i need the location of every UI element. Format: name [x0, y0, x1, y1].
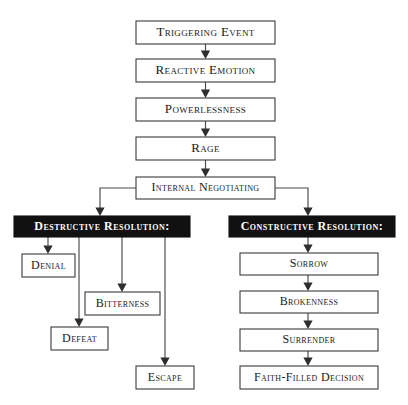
node-constructive_resolution[interactable]: Constructive Resolution:: [229, 216, 395, 237]
arrow-head-icon: [74, 319, 83, 328]
node-reactive_emotion[interactable]: Reactive Emotion: [136, 59, 275, 82]
arrow-head-icon: [201, 51, 210, 60]
node-label: Brokenness: [280, 294, 339, 308]
node-label: Powerlessness: [165, 101, 246, 116]
node-label: Faith-Filled Decision: [254, 370, 364, 384]
node-destructive_resolution[interactable]: Destructive Resolution:: [14, 216, 190, 237]
edge-rage-to-internal_negotiating: [201, 160, 210, 177]
arrow-head-icon: [303, 358, 312, 367]
arrow-head-icon: [303, 245, 312, 254]
node-label: Defeat: [62, 331, 97, 345]
node-internal_negotiating[interactable]: Internal Negotiating: [136, 177, 275, 199]
edge-constructive_resolution-to-sorrow: [303, 237, 312, 253]
node-label: Bitterness: [96, 296, 150, 310]
node-label: Denial: [31, 258, 66, 272]
node-surrender[interactable]: Surrender: [240, 329, 378, 351]
edge-destructive_resolution-to-escape: [160, 237, 169, 366]
node-label: Escape: [148, 370, 182, 384]
edge-powerlessness-to-rage: [201, 121, 210, 137]
connector-line: [100, 188, 136, 212]
arrow-head-icon: [95, 208, 104, 217]
arrow-head-icon: [303, 321, 312, 330]
node-label: Surrender: [283, 332, 336, 346]
node-label: Rage: [191, 140, 220, 155]
arrow-head-icon: [303, 208, 312, 217]
node-faith_filled_decision[interactable]: Faith-Filled Decision: [240, 366, 378, 389]
arrow-head-icon: [303, 283, 312, 292]
connector-line: [275, 188, 308, 212]
edge-destructive_resolution-to-defeat: [74, 237, 83, 327]
node-rage[interactable]: Rage: [136, 137, 275, 160]
arrow-head-icon: [160, 358, 169, 367]
edge-destructive_resolution-to-denial: [43, 237, 52, 254]
flowchart-canvas: Triggering EventReactive EmotionPowerles…: [0, 0, 408, 405]
node-label: Constructive Resolution:: [241, 219, 384, 233]
node-bitterness[interactable]: Bitterness: [85, 292, 160, 315]
edge-destructive_resolution-to-bitterness: [117, 237, 126, 292]
node-powerlessness[interactable]: Powerlessness: [136, 98, 275, 121]
node-label: Internal Negotiating: [152, 180, 260, 194]
node-brokenness[interactable]: Brokenness: [240, 291, 378, 313]
edge-surrender-to-faith_filled_decision: [303, 351, 312, 366]
flowchart-container: Triggering EventReactive EmotionPowerles…: [0, 0, 408, 405]
node-label: Destructive Resolution:: [34, 219, 169, 233]
arrow-head-icon: [201, 90, 210, 99]
edge-internal_negotiating-to-destructive_resolution: [95, 188, 136, 216]
node-label: Triggering Event: [156, 24, 254, 39]
edge-internal_negotiating-to-constructive_resolution: [275, 188, 313, 216]
edge-layer: [43, 44, 312, 366]
edge-reactive_emotion-to-powerlessness: [201, 82, 210, 98]
arrow-head-icon: [117, 284, 126, 293]
node-triggering_event[interactable]: Triggering Event: [136, 21, 275, 44]
node-layer: Triggering EventReactive EmotionPowerles…: [14, 21, 395, 389]
node-label: Sorrow: [290, 256, 329, 270]
arrow-head-icon: [43, 246, 52, 255]
edge-triggering_event-to-reactive_emotion: [201, 44, 210, 59]
edge-sorrow-to-brokenness: [303, 275, 312, 291]
arrow-head-icon: [201, 169, 210, 178]
node-denial[interactable]: Denial: [22, 254, 75, 277]
edge-brokenness-to-surrender: [303, 313, 312, 329]
node-label: Reactive Emotion: [156, 62, 256, 77]
node-sorrow[interactable]: Sorrow: [240, 253, 378, 275]
arrow-head-icon: [201, 129, 210, 138]
node-escape[interactable]: Escape: [136, 366, 194, 389]
node-defeat[interactable]: Defeat: [51, 327, 108, 350]
